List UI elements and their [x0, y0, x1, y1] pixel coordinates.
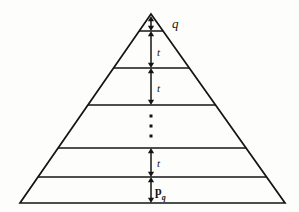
label-t-band-2: t [157, 83, 160, 94]
label-t-band-1: t [157, 47, 160, 58]
divider-lines [0, 31, 299, 177]
label-p-q: pq [155, 185, 166, 200]
ellipsis-dot-1 [150, 115, 153, 118]
label-t-band-lower: t [157, 158, 160, 169]
pyramid-svg [0, 0, 299, 212]
triangle-outline [20, 14, 285, 203]
arrow-d1-to-d2 [148, 31, 154, 68]
vertical-ellipsis [150, 115, 153, 138]
label-p-subscript: q [162, 193, 166, 202]
ellipsis-dot-2 [150, 125, 153, 128]
ellipsis-dot-3 [150, 135, 153, 138]
arrow-d4-to-d5 [148, 148, 154, 177]
pyramid-figure: q t t t pq [0, 0, 299, 212]
label-q: q [172, 17, 179, 30]
label-p-base: p [155, 184, 162, 198]
arrow-d2-to-d3 [148, 68, 154, 105]
measure-arrows [148, 16, 154, 203]
arrow-d5-to-base [148, 177, 154, 203]
